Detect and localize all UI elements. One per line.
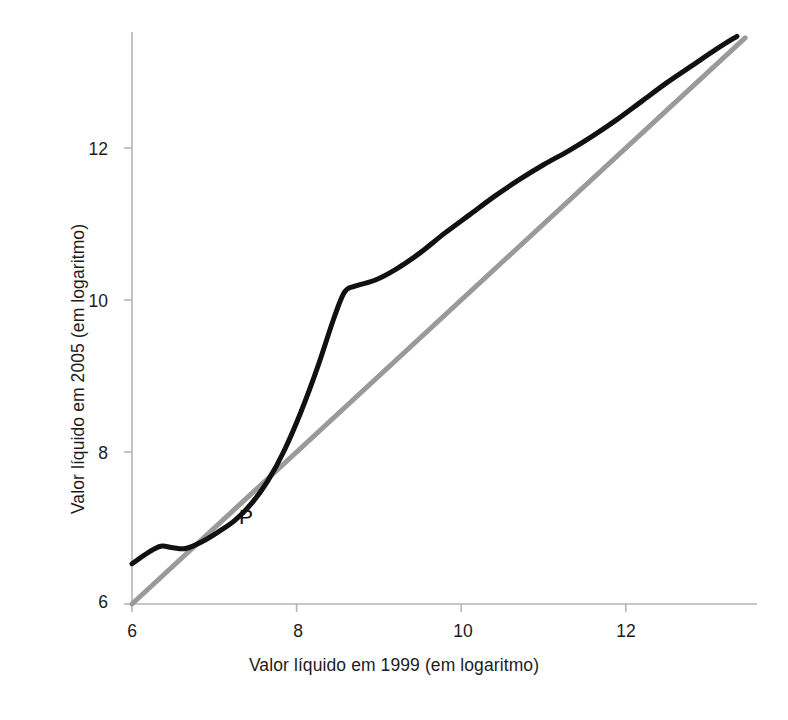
x-tick-label-8: 8: [278, 621, 318, 642]
series-line-1: [132, 38, 745, 604]
plot-area: [0, 0, 788, 720]
x-tick-label-6: 6: [112, 621, 152, 642]
y-axis-title: Valor líquido em 2005 (em logaritmo): [68, 224, 89, 514]
x-tick-label-10: 10: [443, 621, 483, 642]
chart-figure: 12 10 8 6 6 8 10 12 P Valor líquido em 1…: [0, 0, 788, 720]
annotation-p-label: P: [239, 505, 253, 529]
series-line-2: [132, 36, 737, 563]
x-axis-title: Valor líquido em 1999 (em logaritmo): [0, 655, 788, 676]
x-tick-label-12: 12: [606, 621, 646, 642]
series-layer: [132, 36, 745, 604]
y-axis-title-wrap: Valor líquido em 2005 (em logaritmo): [68, 139, 94, 599]
